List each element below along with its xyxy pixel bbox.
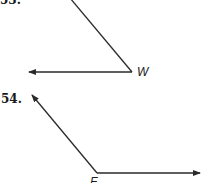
ray-f-upper — [32, 95, 97, 173]
angle-diagrams — [0, 0, 203, 183]
ray-w-upper — [70, 0, 132, 72]
vertex-label-w: W — [137, 65, 148, 79]
angle-f — [32, 95, 200, 173]
vertex-label-f: F — [90, 175, 97, 183]
problem-54-number: 54. — [1, 92, 22, 106]
angle-w — [29, 0, 132, 72]
problem-53-number: 53. — [0, 0, 21, 7]
